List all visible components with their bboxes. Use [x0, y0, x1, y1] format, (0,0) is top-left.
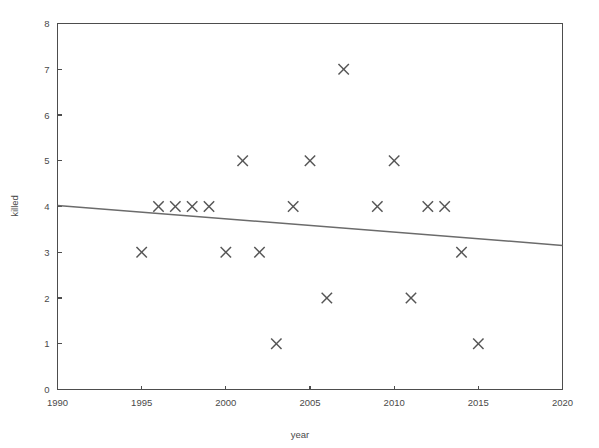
regression-line — [58, 206, 563, 246]
data-point-marker — [187, 201, 197, 211]
data-markers — [136, 64, 483, 349]
x-tick-label: 1990 — [47, 397, 68, 408]
data-point-marker — [254, 247, 264, 257]
data-point-marker — [271, 339, 281, 349]
x-tick-labels: 1990199520002005201020152020 — [47, 397, 573, 408]
axis-frame — [58, 24, 563, 390]
plot-area: 1990199520002005201020152020 012345678 y… — [0, 0, 599, 448]
data-point-marker — [170, 201, 180, 211]
data-point-marker — [322, 293, 332, 303]
data-point-marker — [406, 293, 416, 303]
y-tick-labels: 012345678 — [44, 18, 49, 395]
data-point-marker — [423, 201, 433, 211]
data-point-marker — [439, 201, 449, 211]
axes — [58, 24, 563, 390]
x-tick-label: 2020 — [552, 397, 573, 408]
x-tick-label: 2000 — [215, 397, 236, 408]
y-tick-label: 2 — [44, 293, 49, 304]
y-tick-label: 5 — [44, 155, 49, 166]
y-tick-label: 3 — [44, 247, 49, 258]
data-point-marker — [136, 247, 146, 257]
tick-marks — [58, 24, 563, 390]
y-tick-label: 4 — [44, 201, 49, 212]
y-tick-label: 7 — [44, 64, 49, 75]
data-point-marker — [456, 247, 466, 257]
data-point-marker — [153, 201, 163, 211]
data-point-marker — [288, 201, 298, 211]
x-tick-label: 2015 — [468, 397, 489, 408]
data-point-marker — [237, 156, 247, 166]
data-point-marker — [221, 247, 231, 257]
x-axis-title: year — [291, 429, 309, 440]
data-point-marker — [473, 339, 483, 349]
y-axis-title: killed — [9, 195, 20, 217]
trend-line — [58, 206, 563, 246]
data-point-marker — [338, 64, 348, 74]
scatter-chart: 1990199520002005201020152020 012345678 y… — [0, 0, 599, 448]
y-tick-label: 6 — [44, 110, 49, 121]
y-tick-label: 0 — [44, 384, 49, 395]
x-tick-label: 1995 — [131, 397, 152, 408]
data-point-marker — [372, 201, 382, 211]
x-tick-label: 2010 — [384, 397, 405, 408]
data-point-marker — [204, 201, 214, 211]
y-tick-label: 8 — [44, 18, 49, 29]
data-point-marker — [389, 156, 399, 166]
y-tick-label: 1 — [44, 338, 49, 349]
x-tick-label: 2005 — [299, 397, 320, 408]
data-point-marker — [305, 156, 315, 166]
